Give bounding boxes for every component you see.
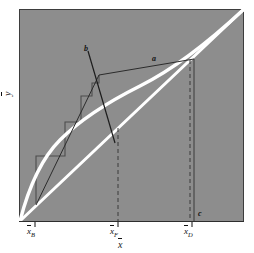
y-axis-label: y: [2, 92, 13, 96]
annotation-b: b: [84, 44, 88, 53]
tick-label-xB: xB: [27, 226, 35, 238]
x-axis-label-text: x: [118, 239, 122, 250]
y-axis-label-text: y: [2, 92, 13, 96]
tick-label-xF-base: x: [110, 226, 114, 236]
tick-label-xD-sub: D: [188, 231, 193, 238]
tick-label-xB-sub: B: [31, 231, 35, 238]
rectifying-operating-line: [99, 59, 194, 75]
diagonal-line: [20, 10, 243, 221]
tick-label-xB-base: x: [27, 226, 31, 236]
chart-svg: [0, 0, 254, 253]
annotation-c: c: [198, 209, 202, 218]
tick-label-xD-base: x: [184, 226, 188, 236]
tick-label-xF-sub: F: [114, 231, 118, 238]
figure-container: y x xB xF xD a b c: [0, 0, 254, 253]
q-line: [88, 51, 115, 143]
tick-label-xF: xF: [110, 226, 118, 238]
annotation-a: a: [152, 54, 156, 63]
tick-label-xD: xD: [184, 226, 193, 238]
x-axis-label: x: [118, 239, 122, 250]
stripping-operating-line: [36, 75, 99, 205]
